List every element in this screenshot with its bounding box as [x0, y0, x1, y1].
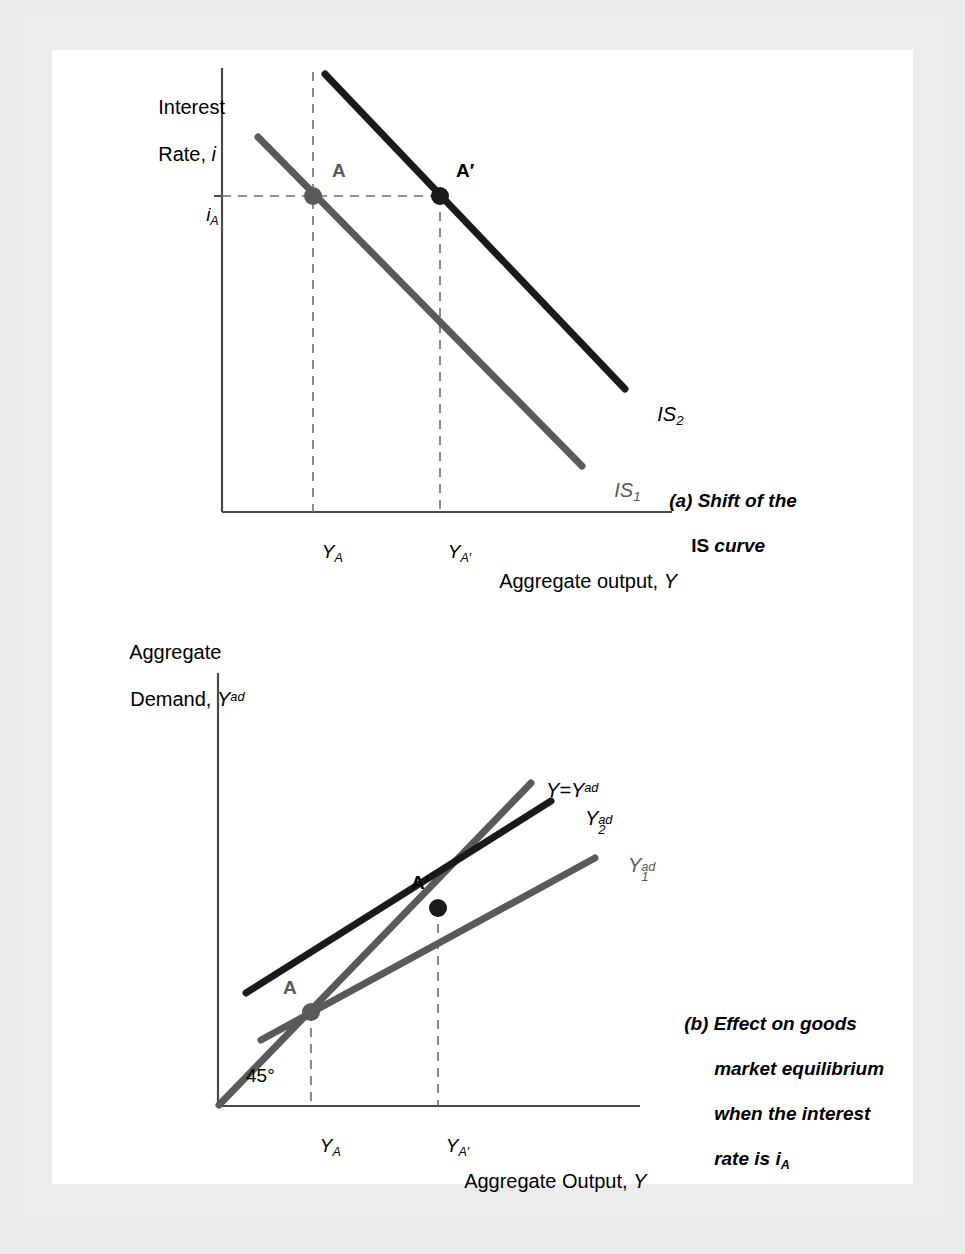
curve-yad1-label-variable: Y: [628, 854, 641, 876]
panel-a-y-axis-title: Interest Rate, i: [136, 72, 232, 190]
panel-a-caption-line2-roman: IS: [691, 535, 714, 556]
panel-a-y-tick-subscript: A: [210, 214, 218, 228]
figure-page: Interest Rate, i iA A A′ IS1 IS2 YA YA′ …: [0, 0, 965, 1254]
curve-yad2-label-variable: Y: [585, 807, 598, 829]
panel-b-caption: (b) Effect on goods market equilibrium w…: [663, 991, 884, 1195]
panel-b-point-a-prime-label: A′: [411, 872, 429, 894]
panel-b-angle-label: 45°: [246, 1065, 275, 1087]
panel-b-caption-line4-prefix: rate is: [714, 1148, 775, 1169]
panel-b-x-tick-ya-subscript: A: [332, 1145, 340, 1159]
curve-is2-label-text: IS: [657, 403, 676, 425]
curve-is2-label-subscript: 2: [676, 412, 683, 427]
panel-a-y-axis-title-line1: Interest: [158, 96, 225, 118]
panel-a-point-a-label: A: [332, 160, 346, 182]
panel-b-x-axis-title-variable: Y: [633, 1170, 646, 1192]
panel-a-x-axis-title-prefix: Aggregate output,: [499, 570, 664, 592]
panel-b-caption-line2: market equilibrium: [714, 1058, 884, 1079]
panel-a-point-a-prime-label: A′: [456, 160, 474, 182]
panel-a-x-tick-label-yaprime: YA′: [427, 519, 471, 588]
panel-b-point-a-label: A: [283, 977, 297, 999]
panel-b-x-tick-ya-variable: Y: [320, 1135, 333, 1156]
panel-b-y-axis-title-variable: Y: [217, 688, 230, 710]
panel-b-y-axis-title: Aggregate Demand, Yad: [108, 617, 214, 735]
curve-is2-label: IS2: [635, 379, 683, 451]
panel-b-caption-line1: (b) Effect on goods: [684, 1013, 857, 1034]
panel-b-caption-line3: when the interest: [714, 1103, 870, 1124]
panel-b-x-axis-title: Aggregate Output, Y: [443, 1146, 646, 1217]
panel-a-caption-line1: (a) Shift of the: [669, 490, 797, 511]
panel-b-x-axis-title-prefix: Aggregate Output,: [464, 1170, 633, 1192]
panel-b-x-tick-label-ya: YA: [299, 1113, 341, 1182]
panel-b-caption-line4-subscript: A: [781, 1157, 790, 1171]
curve-is1-label: IS1: [592, 455, 640, 527]
panel-a-y-axis-title-variable: i: [212, 143, 216, 165]
panel-b-y-axis-title-line2-prefix: Demand,: [130, 688, 217, 710]
panel-a-caption: (a) Shift of the IS curve: [648, 468, 797, 580]
panel-b-y-axis-title-superscript: ad: [230, 688, 244, 703]
panel-a-x-tick-label-ya: YA: [301, 519, 343, 588]
panel-a-y-tick-label: iA: [185, 182, 219, 251]
curve-yad1-label-scripts: ad1: [641, 861, 655, 884]
curve-yad1-label: Yad1: [606, 830, 655, 901]
panel-b-y-axis-title-line1: Aggregate: [129, 641, 221, 663]
panel-a-y-axis-title-line2-prefix: Rate,: [158, 143, 211, 165]
panel-a-x-tick-ya-subscript: A: [334, 551, 342, 565]
panel-a-x-tick-ya-variable: Y: [322, 541, 335, 562]
curve-is1-label-subscript: 1: [633, 488, 640, 503]
curve-is1-label-text: IS: [614, 479, 633, 501]
panel-a-caption-line2-italic: curve: [714, 535, 765, 556]
panel-a-x-tick-yaprime-variable: Y: [448, 541, 461, 562]
panel-a-x-tick-yaprime-subscript: A′: [460, 551, 471, 565]
